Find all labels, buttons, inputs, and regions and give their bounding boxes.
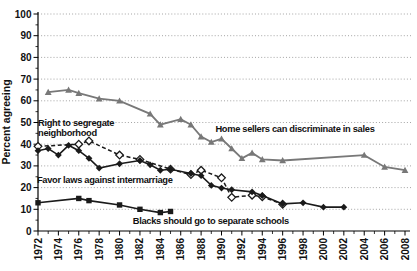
- x-tick-label: 1990: [216, 238, 227, 261]
- open-diamond-marker: [218, 174, 226, 182]
- y-tick-label: 80: [20, 52, 32, 63]
- chart-layers: 0102030405060708090100197219741976197819…: [15, 9, 411, 261]
- label-separate-schools: Blacks should go to separate schools: [133, 216, 289, 226]
- y-tick-label: 50: [20, 117, 32, 128]
- square-marker: [168, 209, 173, 214]
- square-marker: [137, 207, 142, 212]
- label-intermarriage: Favor laws against intermarriage: [37, 175, 173, 185]
- label-home-sellers: Home sellers can discriminate in sales: [215, 124, 374, 134]
- x-tick-label: 1998: [298, 238, 309, 261]
- x-tick-label: 2000: [318, 238, 329, 261]
- x-tick-label: 1984: [155, 238, 166, 261]
- open-diamond-marker: [85, 137, 93, 145]
- square-marker: [76, 196, 81, 201]
- open-diamond-marker: [228, 194, 236, 202]
- y-tick-label: 60: [20, 95, 32, 106]
- series-separate-schools: [35, 196, 173, 216]
- y-axis-title: Percent agreeing: [0, 79, 12, 164]
- square-marker: [117, 202, 122, 207]
- x-tick-label: 1972: [33, 238, 44, 261]
- x-tick-label: 2006: [379, 238, 390, 261]
- x-tick-label: 1994: [257, 238, 268, 261]
- diamond-marker: [218, 185, 225, 192]
- diamond-marker: [157, 167, 164, 174]
- x-tick-label: 1980: [114, 238, 125, 261]
- square-marker: [158, 210, 163, 215]
- triangle-marker: [249, 149, 256, 155]
- y-tick-label: 70: [20, 74, 32, 85]
- y-tick-label: 10: [20, 204, 32, 215]
- open-diamond-marker: [75, 140, 83, 148]
- y-tick-label: 20: [20, 182, 32, 193]
- x-tick-label: 2008: [400, 238, 411, 261]
- y-tick-label: 0: [26, 226, 32, 237]
- x-tick-label: 1996: [277, 238, 288, 261]
- x-tick-label: 1992: [236, 238, 247, 261]
- x-tick-label: 1978: [94, 238, 105, 261]
- x-tick-label: 2002: [338, 238, 349, 261]
- square-marker: [86, 198, 91, 203]
- y-tick-label: 40: [20, 139, 32, 150]
- y-tick-label: 30: [20, 160, 32, 171]
- x-tick-label: 1976: [73, 238, 84, 261]
- triangle-marker: [218, 135, 225, 141]
- x-tick-label: 1974: [53, 238, 64, 261]
- diamond-marker: [167, 166, 174, 173]
- x-tick-label: 1982: [134, 238, 145, 261]
- label-segregate-neighborhood: Right to segregate: [38, 118, 114, 128]
- square-marker: [35, 200, 40, 205]
- diamond-marker: [340, 204, 347, 211]
- racial-attitudes-trend-figure: Percent agreeing 01020304050607080901001…: [0, 0, 417, 271]
- chart-canvas: Percent agreeing 01020304050607080901001…: [0, 0, 417, 271]
- x-tick-label: 1988: [196, 238, 207, 261]
- diamond-marker: [300, 199, 307, 206]
- open-diamond-marker: [116, 151, 124, 159]
- x-tick-label: 1986: [175, 238, 186, 261]
- y-tick-label: 100: [15, 9, 32, 20]
- y-tick-label: 90: [20, 30, 32, 41]
- line-chart: Percent agreeing 01020304050607080901001…: [0, 0, 417, 271]
- x-tick-label: 2004: [359, 238, 370, 261]
